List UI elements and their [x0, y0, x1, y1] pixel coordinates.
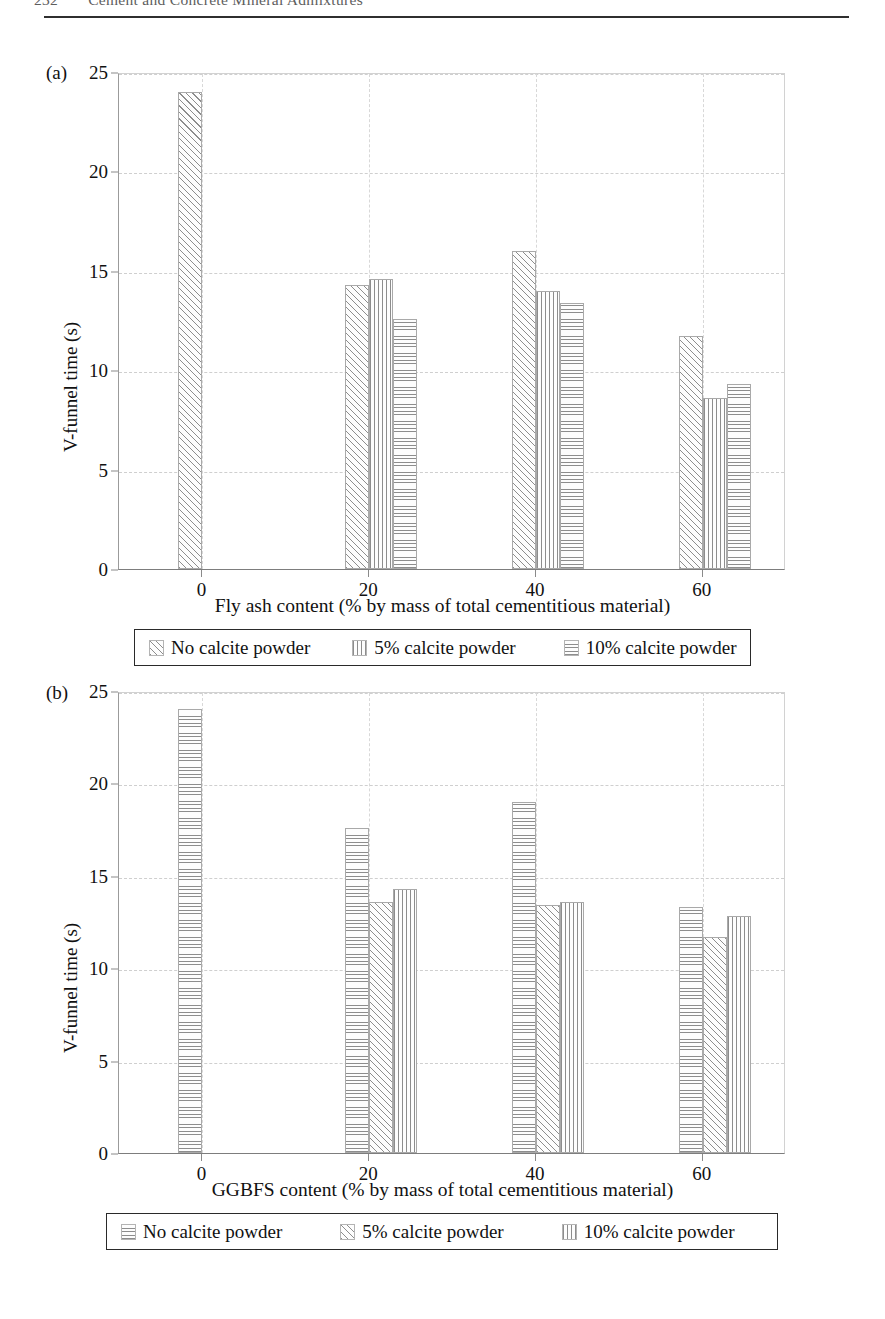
x-axis-label-b: GGBFS content (% by mass of total cement…: [0, 1179, 885, 1201]
y-axis-label-b: V-funnel time (s): [60, 923, 82, 1053]
plot-area-a: [118, 73, 785, 570]
bar: [703, 398, 727, 569]
gridline-y: [119, 693, 784, 694]
legend-a: No calcite powder5% calcite powder10% ca…: [134, 629, 751, 666]
bar: [178, 709, 202, 1153]
y-tick-label: 0: [62, 1143, 108, 1165]
y-tick-label: 15: [62, 261, 108, 283]
legend-swatch-icon: [121, 1224, 136, 1240]
bar: [512, 251, 536, 569]
y-tick-label: 5: [62, 1051, 108, 1073]
y-tick-mark: [111, 73, 118, 74]
legend-label: No calcite powder: [143, 1221, 282, 1243]
y-tick-label: 10: [62, 360, 108, 382]
legend-swatch-icon: [564, 640, 579, 656]
bar: [703, 937, 727, 1153]
legend-b: No calcite powder5% calcite powder10% ca…: [106, 1213, 778, 1250]
legend-label: 10% calcite powder: [584, 1221, 735, 1243]
x-axis-label-a: Fly ash content (% by mass of total ceme…: [0, 595, 885, 617]
y-axis-label-a: V-funnel time (s): [60, 322, 82, 452]
y-tick-label: 20: [62, 773, 108, 795]
bar: [178, 92, 202, 569]
y-tick-label: 15: [62, 866, 108, 888]
gridline-y: [119, 878, 784, 879]
y-tick-mark: [111, 271, 118, 272]
legend-swatch-icon: [352, 640, 367, 656]
bar: [560, 902, 584, 1153]
y-tick-mark: [111, 371, 118, 372]
legend-label: 5% calcite powder: [374, 637, 515, 659]
legend-item: No calcite powder: [149, 637, 310, 659]
gridline-x: [202, 74, 203, 569]
legend-item: 5% calcite powder: [340, 1221, 503, 1243]
bar: [727, 916, 751, 1153]
legend-label: No calcite powder: [171, 637, 310, 659]
y-tick-label: 25: [62, 681, 108, 703]
bar: [369, 902, 393, 1153]
running-title: Cement and Concrete Mineral Admixtures: [88, 0, 363, 9]
gridline-y: [119, 785, 784, 786]
header-rule: [44, 16, 849, 18]
gridline-y: [119, 273, 784, 274]
y-tick-mark: [111, 969, 118, 970]
y-tick-label: 10: [62, 958, 108, 980]
x-tick-mark: [702, 570, 703, 577]
bar: [536, 291, 560, 569]
x-tick-mark: [201, 1154, 202, 1161]
plot-area-b: [118, 692, 785, 1154]
figure-b: (b) V-funnel time (s) 05101520250204060 …: [0, 668, 885, 1298]
bar: [345, 828, 369, 1153]
y-tick-mark: [111, 784, 118, 785]
gridline-y: [119, 173, 784, 174]
y-tick-label: 20: [62, 161, 108, 183]
legend-swatch-icon: [340, 1224, 355, 1240]
gridline-y: [119, 74, 784, 75]
legend-item: 10% calcite powder: [562, 1221, 735, 1243]
y-tick-mark: [111, 172, 118, 173]
y-tick-mark: [111, 1154, 118, 1155]
x-tick-mark: [368, 570, 369, 577]
bar: [727, 384, 751, 569]
bar: [369, 279, 393, 569]
y-tick-mark: [111, 1061, 118, 1062]
y-tick-label: 25: [62, 62, 108, 84]
y-tick-mark: [111, 692, 118, 693]
x-tick-mark: [368, 1154, 369, 1161]
x-tick-mark: [702, 1154, 703, 1161]
bar: [345, 285, 369, 569]
bar: [679, 336, 703, 569]
page-number: 232: [34, 0, 58, 9]
x-tick-mark: [535, 1154, 536, 1161]
y-tick-label: 5: [62, 460, 108, 482]
legend-swatch-icon: [562, 1224, 577, 1240]
bar: [560, 303, 584, 569]
legend-item: No calcite powder: [121, 1221, 282, 1243]
y-tick-mark: [111, 876, 118, 877]
x-tick-mark: [535, 570, 536, 577]
gridline-x: [202, 693, 203, 1153]
legend-label: 5% calcite powder: [362, 1221, 503, 1243]
bar: [512, 802, 536, 1153]
y-tick-mark: [111, 570, 118, 571]
legend-swatch-icon: [149, 640, 164, 656]
legend-label: 10% calcite powder: [586, 637, 737, 659]
y-tick-label: 0: [62, 559, 108, 581]
bar: [679, 907, 703, 1153]
legend-item: 10% calcite powder: [564, 637, 737, 659]
bar: [393, 889, 417, 1153]
legend-item: 5% calcite powder: [352, 637, 515, 659]
x-tick-mark: [201, 570, 202, 577]
bar: [393, 319, 417, 569]
bar: [536, 905, 560, 1153]
figure-a: (a) V-funnel time (s) 05101520250204060 …: [0, 52, 885, 652]
y-tick-mark: [111, 470, 118, 471]
